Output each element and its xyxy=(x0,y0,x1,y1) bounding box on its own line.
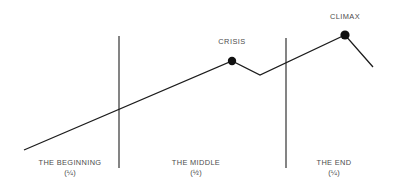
act-label-middle: THE MIDDLE (½) xyxy=(136,158,256,178)
climax-point-marker xyxy=(340,30,349,39)
act-fraction-beginning: (¼) xyxy=(10,168,130,178)
act-fraction-end: (¼) xyxy=(274,168,393,178)
story-structure-diagram: CRISIS CLIMAX THE BEGINNING (¼) THE MIDD… xyxy=(0,0,393,189)
crisis-label: CRISIS xyxy=(182,37,282,46)
act-label-end: THE END (¼) xyxy=(274,158,393,178)
plot-arc-line xyxy=(24,35,373,150)
act-name-beginning: THE BEGINNING xyxy=(10,158,130,168)
act-fraction-middle: (½) xyxy=(136,168,256,178)
climax-label: CLIMAX xyxy=(295,12,393,21)
crisis-point-marker xyxy=(228,57,236,65)
act-name-middle: THE MIDDLE xyxy=(136,158,256,168)
act-name-end: THE END xyxy=(274,158,393,168)
act-label-beginning: THE BEGINNING (¼) xyxy=(10,158,130,178)
